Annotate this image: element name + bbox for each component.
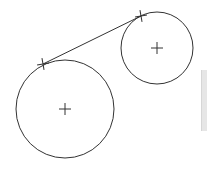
side-panel-handle[interactable] (201, 70, 207, 131)
tangent-line (43, 16, 141, 64)
tangent-point-large-cross-icon (36, 57, 50, 71)
large-circle-center-cross-icon (59, 103, 71, 115)
diagram-canvas (0, 0, 207, 172)
markers-group (36, 9, 163, 115)
tangent-point-small-cross-icon (134, 9, 148, 23)
small-circle-center-cross-icon (151, 42, 163, 54)
